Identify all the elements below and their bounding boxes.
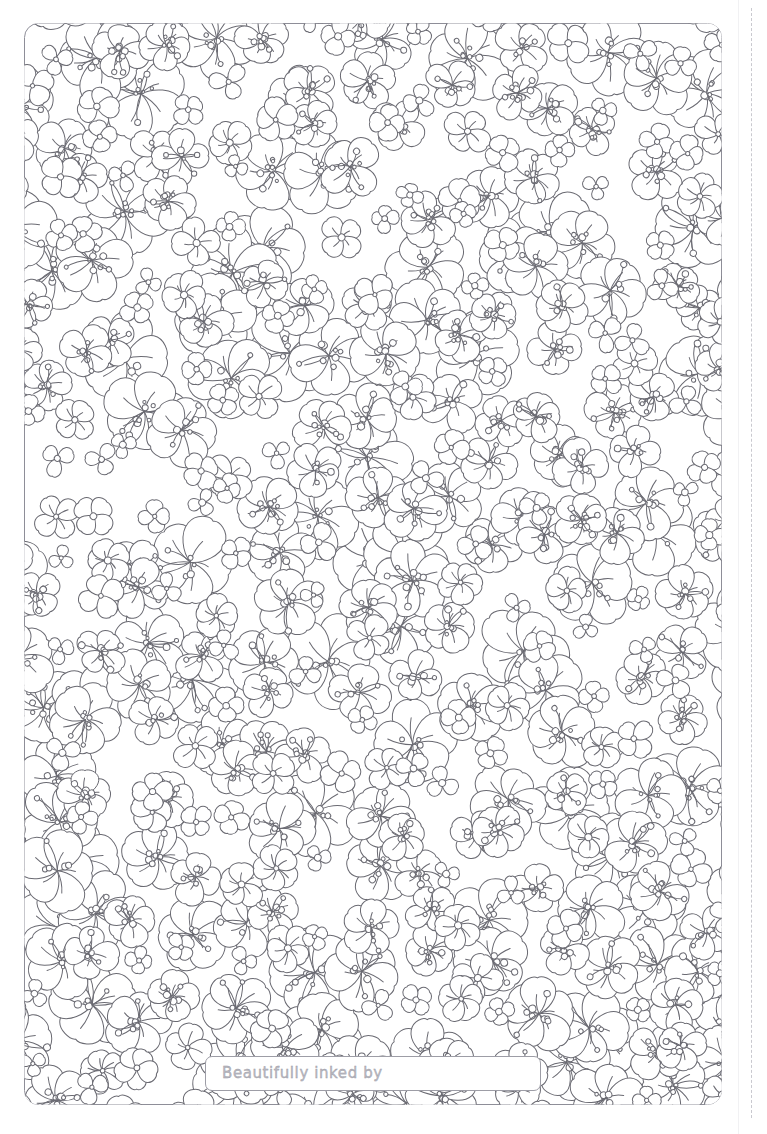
trim-line-solid	[738, 0, 739, 1134]
flower-pattern-canvas	[24, 23, 722, 1105]
signature-label-box[interactable]: Beautifully inked by	[205, 1056, 541, 1091]
artwork-frame	[24, 23, 722, 1105]
signature-label-text: Beautifully inked by	[222, 1064, 383, 1082]
trim-line-dashed	[751, 8, 752, 1118]
coloring-page: Beautifully inked by	[0, 0, 767, 1134]
